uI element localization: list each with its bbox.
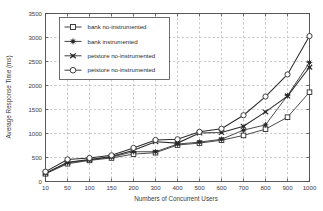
- data-point-marker: [153, 137, 158, 142]
- x-tick-label: 400: [172, 184, 183, 191]
- data-point-marker: [197, 139, 203, 145]
- data-point-marker: [219, 136, 225, 142]
- data-point-marker: [263, 94, 268, 99]
- data-point-marker: [197, 129, 202, 134]
- legend-label: petstore no-instrumented: [88, 66, 156, 73]
- x-tick-label: 600: [216, 184, 227, 191]
- y-axis-title: Average Response Time (ms): [5, 55, 13, 138]
- x-tick-label: 700: [238, 184, 249, 191]
- y-tick-label: 3500: [28, 10, 42, 17]
- y-axis-tick-labels: 0500100015002000250030003500: [28, 10, 42, 185]
- chart-legend: bank no-instrumentedbank instrumentedpet…: [60, 18, 170, 80]
- data-point-marker: [307, 33, 312, 38]
- data-point-marker: [109, 153, 114, 158]
- x-tick-label: 500: [194, 184, 205, 191]
- data-point-marker: [175, 137, 180, 142]
- legend-marker-open-circle: [70, 67, 76, 73]
- data-point-marker: [219, 126, 224, 131]
- x-tick-label: 300: [150, 184, 161, 191]
- data-point-marker: [307, 90, 312, 95]
- data-point-marker: [263, 110, 268, 115]
- legend-label: bank no-instrumented: [88, 23, 147, 30]
- data-point-marker: [153, 149, 159, 155]
- x-tick-label: 50: [64, 184, 71, 191]
- data-point-marker: [65, 157, 70, 162]
- x-tick-label: 150: [106, 184, 117, 191]
- legend-label: bank instrumented: [88, 38, 138, 45]
- data-point-marker: [241, 113, 246, 118]
- x-tick-label: 900: [282, 184, 293, 191]
- x-tick-label: 800: [260, 184, 271, 191]
- data-point-marker: [43, 169, 48, 174]
- legend-marker-filled-asterisk: [70, 38, 76, 44]
- y-tick-label: 500: [32, 154, 43, 161]
- data-point-marker: [241, 133, 246, 138]
- y-tick-label: 1500: [28, 106, 42, 113]
- data-point-marker: [285, 115, 290, 120]
- line-chart: 0500100015002000250030003500 10501001502…: [0, 0, 323, 211]
- y-tick-label: 2000: [28, 82, 42, 89]
- chart-figure: 0500100015002000250030003500 10501001502…: [0, 0, 323, 211]
- data-point-marker: [87, 155, 92, 160]
- legend-label: petstore no-instrumented: [88, 52, 156, 59]
- data-point-marker: [131, 145, 136, 150]
- data-point-marker: [285, 72, 290, 77]
- y-tick-label: 1000: [28, 130, 42, 137]
- data-point-marker: [263, 122, 269, 128]
- x-tick-label: 10: [42, 184, 49, 191]
- x-tick-label: 200: [128, 184, 139, 191]
- x-tick-label: 100: [84, 184, 95, 191]
- x-tick-label: 1000: [303, 184, 317, 191]
- x-axis-tick-labels: 10501001502003004005006007008009001000: [42, 184, 317, 191]
- x-axis-title: Numbers of Concurrent Users: [134, 195, 218, 202]
- y-tick-label: 2500: [28, 58, 42, 65]
- legend-marker-open-square: [71, 25, 76, 30]
- y-tick-label: 3000: [28, 34, 42, 41]
- data-point-marker: [307, 60, 313, 66]
